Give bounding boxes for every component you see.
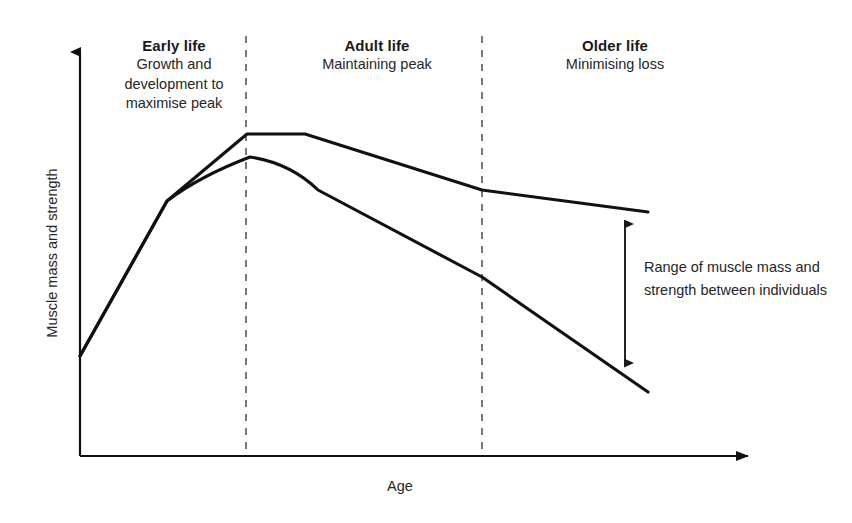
curve-lower-bound <box>80 157 648 392</box>
x-axis-label: Age <box>330 478 470 494</box>
curve-upper-bound <box>80 134 648 356</box>
stage-title-adult: Adult life <box>272 36 482 55</box>
stage-label-early: Early life Growth and development to max… <box>98 36 250 114</box>
stage-subtitle-adult: Maintaining peak <box>272 55 482 75</box>
range-annotation-text: Range of muscle mass and strength betwee… <box>644 256 844 302</box>
stage-subtitle-older: Minimising loss <box>510 55 720 75</box>
stage-subtitle-early: Growth and development to maximise peak <box>98 55 250 114</box>
stage-title-early: Early life <box>98 36 250 55</box>
stage-title-older: Older life <box>510 36 720 55</box>
stage-label-adult: Adult life Maintaining peak <box>272 36 482 75</box>
y-axis-label: Muscle mass and strength <box>44 123 60 383</box>
figure-root: Early life Growth and development to max… <box>0 0 852 523</box>
stage-label-older: Older life Minimising loss <box>510 36 720 75</box>
